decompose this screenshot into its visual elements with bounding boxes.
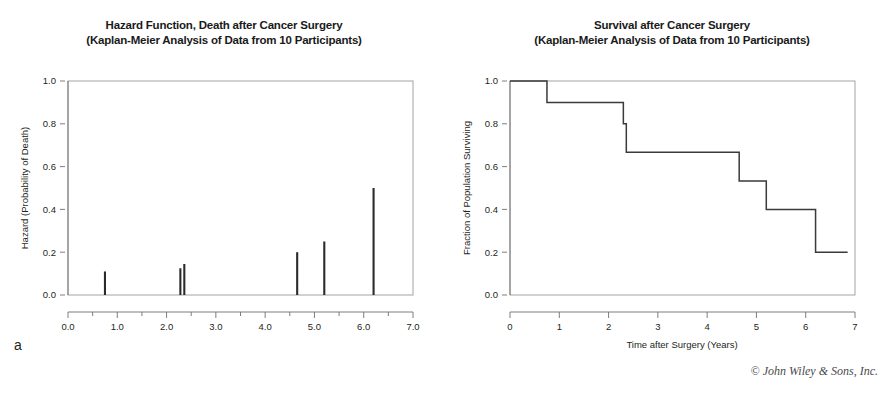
x-tick-label: 0 bbox=[507, 321, 512, 332]
x-tick-label: 6 bbox=[803, 321, 808, 332]
hazard-plot-frame bbox=[68, 81, 413, 295]
x-tick-label: 7.0 bbox=[406, 321, 419, 332]
y-tick-label: 0.4 bbox=[43, 204, 56, 215]
x-tick-label: 3 bbox=[655, 321, 660, 332]
y-tick-label: 0.6 bbox=[485, 161, 498, 172]
y-tick-label: 0.4 bbox=[485, 204, 498, 215]
x-tick-label: 0.0 bbox=[61, 321, 74, 332]
x-tick-label: 2 bbox=[606, 321, 611, 332]
y-tick-label: 0.2 bbox=[485, 247, 498, 258]
y-tick-label: 0.6 bbox=[43, 161, 56, 172]
survival-y-axis-label: Fraction of Population Surviving bbox=[461, 121, 472, 255]
copyright-notice: © John Wiley & Sons, Inc. bbox=[751, 364, 878, 379]
panel-letter-a: a bbox=[14, 337, 22, 353]
hazard-y-ticks: 0.00.20.40.60.81.0 bbox=[43, 75, 65, 300]
x-tick-label: 3.0 bbox=[209, 321, 222, 332]
hazard-y-axis-label: Hazard (Probability of Death) bbox=[19, 127, 30, 250]
y-tick-label: 0.8 bbox=[43, 118, 56, 129]
y-tick-label: 0.2 bbox=[43, 247, 56, 258]
figure-root: Hazard Function, Death after Cancer Surg… bbox=[0, 0, 896, 403]
y-tick-label: 1.0 bbox=[485, 75, 498, 86]
y-tick-label: 0.0 bbox=[43, 289, 56, 300]
x-tick-label: 6.0 bbox=[357, 321, 370, 332]
hazard-bars bbox=[105, 188, 374, 295]
hazard-x-ticks: 0.01.02.03.04.05.06.07.0 bbox=[61, 312, 419, 332]
x-tick-label: 1 bbox=[557, 321, 562, 332]
x-tick-label: 2.0 bbox=[160, 321, 173, 332]
panel-hazard-function: Hazard Function, Death after Cancer Surg… bbox=[0, 0, 448, 360]
x-tick-label: 4.0 bbox=[259, 321, 272, 332]
x-tick-label: 5 bbox=[754, 321, 759, 332]
x-tick-label: 4 bbox=[704, 321, 709, 332]
survival-plot-frame bbox=[510, 81, 855, 295]
survival-x-ticks: 01234567 bbox=[507, 312, 857, 332]
panel-survival-curve: Survival after Cancer Surgery (Kaplan-Me… bbox=[448, 0, 896, 360]
y-tick-label: 1.0 bbox=[43, 75, 56, 86]
y-tick-label: 0.8 bbox=[485, 118, 498, 129]
survival-step-curve bbox=[510, 81, 848, 252]
x-tick-label: 5.0 bbox=[308, 321, 321, 332]
hazard-plot: 0.00.20.40.60.81.0 0.01.02.03.04.05.06.0… bbox=[0, 0, 448, 360]
x-tick-label: 7 bbox=[852, 321, 857, 332]
survival-plot: 0.00.20.40.60.81.0 01234567 Fraction of … bbox=[448, 0, 896, 360]
y-tick-label: 0.0 bbox=[485, 289, 498, 300]
x-tick-label: 1.0 bbox=[111, 321, 124, 332]
survival-y-ticks: 0.00.20.40.60.81.0 bbox=[485, 75, 507, 300]
survival-x-axis-label: Time after Surgery (Years) bbox=[626, 339, 737, 350]
